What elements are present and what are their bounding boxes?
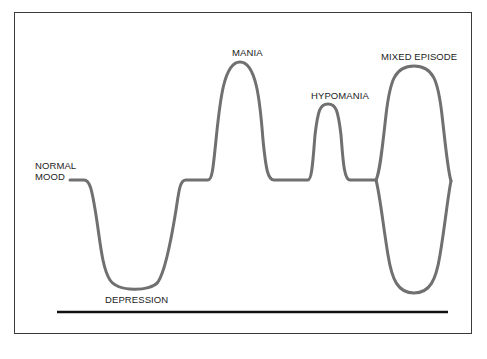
label-normal-mood-line1: NORMAL: [35, 160, 76, 171]
label-hypomania: HYPOMANIA: [311, 90, 369, 101]
label-depression: DEPRESSION: [105, 294, 168, 305]
mixed-episode-lower-curve: [376, 180, 451, 293]
label-mixed-episode: MIXED EPISODE: [381, 51, 457, 62]
label-normal-mood: NORMAL MOOD: [35, 160, 76, 182]
label-normal-mood-line2: MOOD: [35, 171, 76, 182]
mixed-episode-upper-curve: [376, 66, 451, 181]
label-mania: MANIA: [232, 47, 263, 58]
